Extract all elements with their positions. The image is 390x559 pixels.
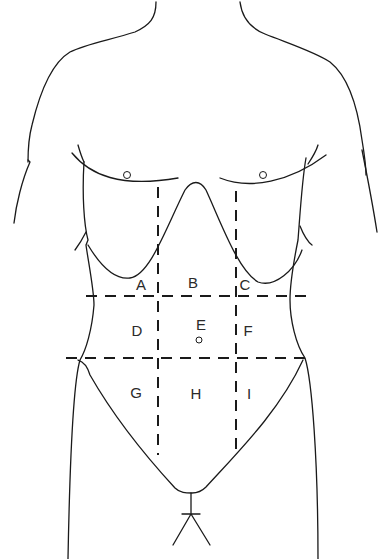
region-label-d: D — [132, 323, 143, 338]
region-label-g: G — [130, 385, 142, 400]
abdominal-regions-diagram: A B C D E F G H I — [0, 0, 390, 559]
region-label-i: I — [247, 386, 251, 401]
pubic-mark — [173, 493, 210, 545]
left-arm — [14, 160, 30, 223]
inguinal-line — [78, 360, 303, 493]
region-label-f: F — [243, 323, 252, 338]
left-flank — [68, 162, 94, 559]
region-label-c: C — [240, 277, 251, 292]
left-axilla — [78, 145, 84, 162]
region-label-b: B — [188, 275, 198, 290]
left-pectoral-line — [72, 153, 178, 181]
region-label-h: H — [191, 386, 202, 401]
right-arm — [362, 150, 377, 232]
region-label-e: E — [196, 317, 206, 332]
right-nipple — [260, 172, 267, 179]
region-label-a: A — [136, 277, 146, 292]
left-nipple — [124, 172, 131, 179]
costal-margin — [88, 183, 302, 284]
right-flank-notch — [300, 226, 312, 245]
right-pectoral-line — [220, 155, 326, 183]
neck-right-shoulder — [240, 2, 366, 175]
neck-left-shoulder — [28, 2, 156, 162]
left-flank-notch — [75, 232, 86, 250]
umbilicus — [196, 337, 202, 343]
